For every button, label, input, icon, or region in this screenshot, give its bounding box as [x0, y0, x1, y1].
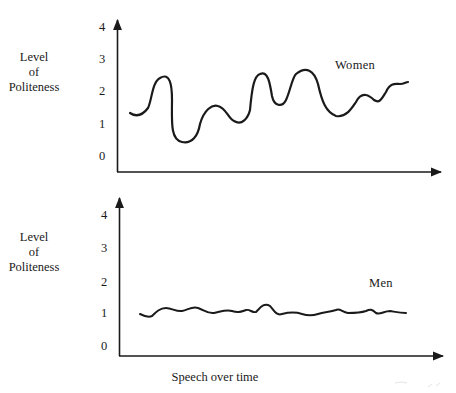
- ylabel-line-2: of: [4, 65, 64, 80]
- women-ytick-4: 4: [96, 20, 108, 35]
- x-axis-label: Speech over time: [150, 370, 280, 385]
- men-y-axis-label: Level of Politeness: [4, 230, 64, 275]
- men-ytick-0: 0: [98, 339, 110, 354]
- men-ytick-4: 4: [98, 208, 110, 223]
- men-series-label: Men: [369, 276, 393, 291]
- women-ytick-0: 0: [96, 149, 108, 164]
- women-series-label: Women: [335, 58, 375, 73]
- women-ytick-2: 2: [96, 84, 108, 99]
- ylabel-line-3: Politeness: [4, 260, 64, 275]
- ylabel-line-3: Politeness: [4, 80, 64, 95]
- ylabel-line-1: Level: [4, 230, 64, 245]
- women-ytick-1: 1: [96, 117, 108, 132]
- men-ytick-3: 3: [98, 241, 110, 256]
- ylabel-line-1: Level: [4, 50, 64, 65]
- men-politeness-line: [140, 305, 406, 317]
- ylabel-line-2: of: [4, 245, 64, 260]
- men-panel-axes: [119, 198, 443, 356]
- men-ytick-1: 1: [98, 306, 110, 321]
- men-ytick-2: 2: [98, 275, 110, 290]
- scan-artifact: [395, 382, 440, 387]
- chart-canvas: [0, 0, 456, 393]
- women-ytick-3: 3: [96, 52, 108, 67]
- women-panel-axes: [117, 20, 441, 172]
- women-y-axis-label: Level of Politeness: [4, 50, 64, 95]
- women-politeness-line: [130, 70, 408, 142]
